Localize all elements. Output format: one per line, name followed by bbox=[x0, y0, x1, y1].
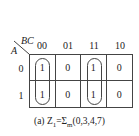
col-header-01: 01 bbox=[55, 40, 81, 51]
cell-a0-bc10: 0 bbox=[107, 55, 133, 81]
caption: (a) Z1=Σm(0,3,4,7) bbox=[0, 116, 139, 129]
caption-prefix: (a) Z bbox=[34, 116, 53, 126]
row-variable-label: A bbox=[11, 45, 17, 56]
group-loop-bc11 bbox=[87, 58, 102, 105]
cell-a1-bc10: 0 bbox=[107, 81, 133, 107]
group-loop-bc00 bbox=[35, 58, 50, 105]
caption-terms: (0,3,4,7) bbox=[73, 116, 105, 126]
row-header-0: 0 bbox=[16, 63, 26, 74]
col-header-10: 10 bbox=[107, 40, 133, 51]
col-header-11: 11 bbox=[81, 40, 107, 51]
cell-a1-bc01: 0 bbox=[56, 81, 82, 107]
cell-a0-bc01: 0 bbox=[56, 55, 82, 81]
row-header-1: 1 bbox=[16, 90, 26, 101]
col-header-00: 00 bbox=[29, 40, 55, 51]
caption-equals-sigma: =Σ bbox=[56, 116, 67, 126]
